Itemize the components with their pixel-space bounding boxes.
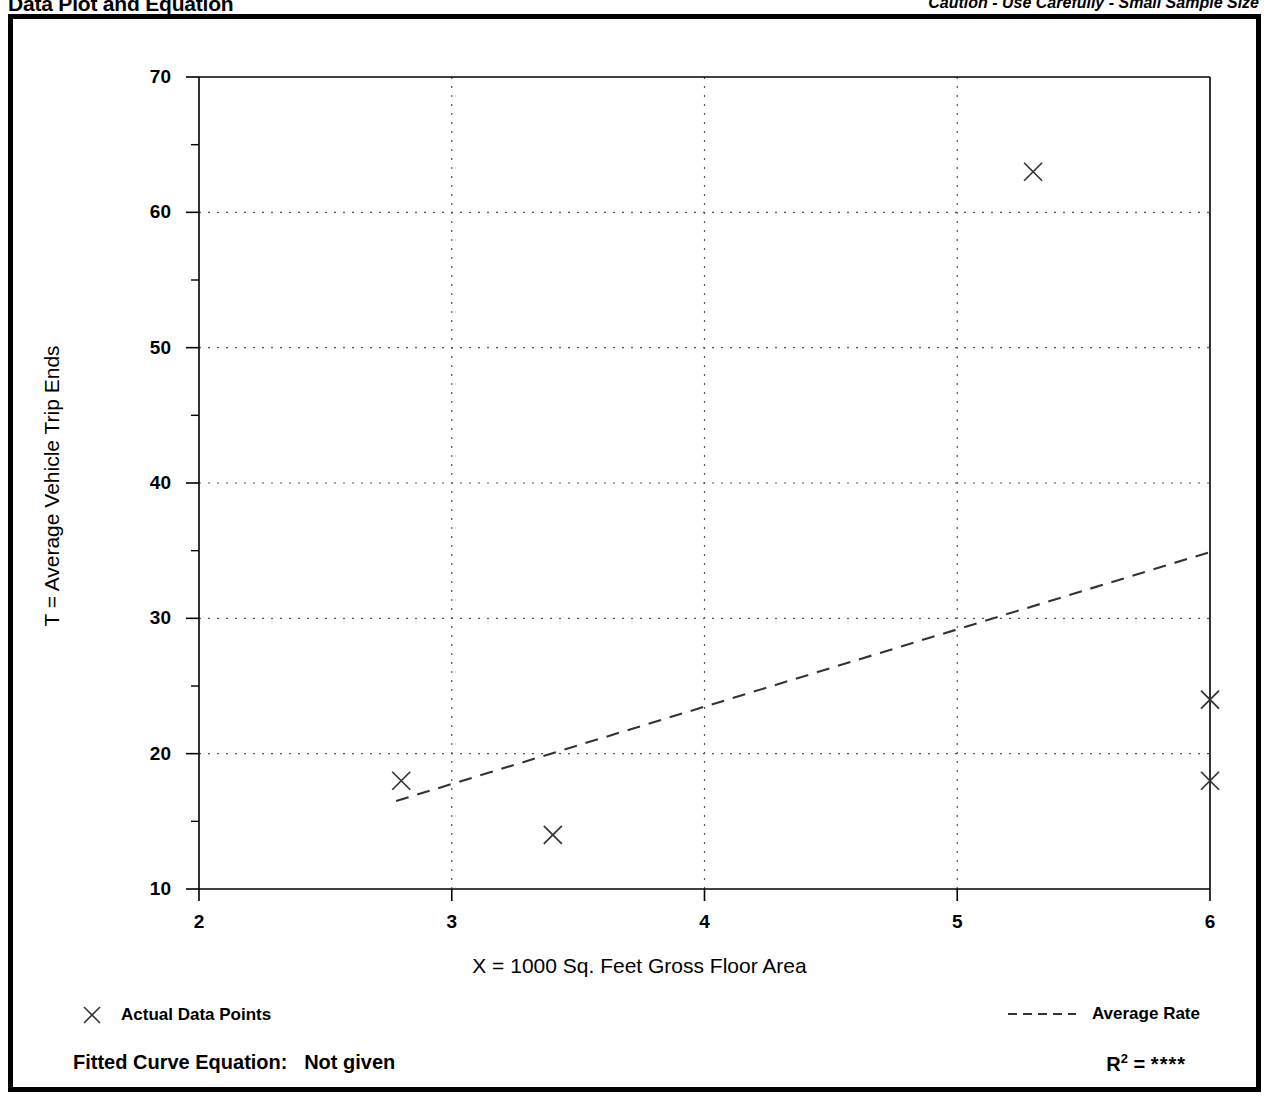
tick-marks-group	[186, 77, 1210, 901]
gridlines-group	[199, 77, 1210, 889]
data-point-marker	[544, 826, 562, 844]
r-value: ****	[1151, 1053, 1186, 1075]
r-symbol: R	[1106, 1053, 1120, 1075]
data-point-marker	[392, 772, 410, 790]
y-tick-label-20: 20	[125, 743, 171, 765]
legend-item-actual-data-points: Actual Data Points	[81, 1004, 271, 1026]
y-tick-label-50: 50	[125, 337, 171, 359]
x-tick-label-5: 5	[937, 911, 977, 933]
fitted-curve-value: Not given	[304, 1051, 395, 1073]
r-exponent: 2	[1121, 1051, 1128, 1066]
legend: Actual Data Points Average Rate	[13, 1004, 1266, 1044]
x-tick-label-3: 3	[432, 911, 472, 933]
y-tick-label-10: 10	[125, 878, 171, 900]
y-tick-label-70: 70	[125, 66, 171, 88]
caution-note: Caution - Use Carefully - Small Sample S…	[928, 0, 1259, 12]
r-equals: =	[1134, 1053, 1146, 1075]
data-point-marker	[1024, 163, 1042, 181]
x-tick-label-2: 2	[179, 911, 219, 933]
x-tick-label-6: 6	[1190, 911, 1230, 933]
y-tick-label-30: 30	[125, 607, 171, 629]
x-marker-icon	[81, 1004, 103, 1026]
y-tick-label-60: 60	[125, 201, 171, 223]
data-point-markers	[392, 163, 1219, 844]
chart-frame: 10203040506070 23456 X = 1000 Sq. Feet G…	[8, 14, 1261, 1092]
y-tick-label-40: 40	[125, 472, 171, 494]
chart-figure: 10203040506070 23456 X = 1000 Sq. Feet G…	[13, 19, 1266, 1097]
y-axis-title: T = Average Vehicle Trip Ends	[40, 206, 64, 766]
scatter-plot-svg	[13, 19, 1266, 1097]
legend-label-average-rate: Average Rate	[1092, 1004, 1200, 1024]
footer: Fitted Curve Equation: Not given R2 = **…	[13, 1051, 1266, 1091]
dashed-line-icon	[1006, 1008, 1078, 1020]
x-tick-label-4: 4	[685, 911, 725, 933]
average-rate-line	[396, 552, 1210, 801]
fitted-curve-equation: Fitted Curve Equation: Not given	[73, 1051, 395, 1074]
legend-item-average-rate: Average Rate	[1006, 1004, 1200, 1024]
r-squared-value: R2 = ****	[1106, 1051, 1186, 1076]
x-axis-title: X = 1000 Sq. Feet Gross Floor Area	[13, 954, 1266, 978]
fitted-curve-label: Fitted Curve Equation:	[73, 1051, 287, 1073]
legend-label-actual-data-points: Actual Data Points	[121, 1005, 271, 1025]
